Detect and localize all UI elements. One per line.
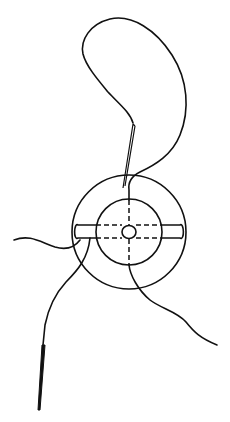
horizontal-bolster <box>75 225 184 239</box>
upper-needle <box>123 124 135 188</box>
lower-right-thread-tail <box>129 265 217 345</box>
suture-loop <box>82 18 186 200</box>
suture-diagram <box>0 0 230 422</box>
bolster-dashed-section <box>96 225 162 238</box>
center-ring <box>122 226 136 239</box>
lower-needle <box>38 345 45 410</box>
left-thread-tail <box>14 238 80 248</box>
lower-left-thread <box>43 238 90 345</box>
